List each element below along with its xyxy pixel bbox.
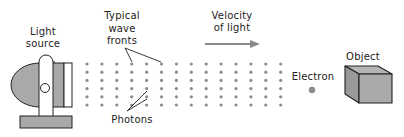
photon-dot <box>249 62 252 65</box>
photon-dot <box>130 95 133 98</box>
photon-pointers <box>127 91 147 111</box>
photon-dot <box>205 62 208 65</box>
photon-dot <box>100 79 103 82</box>
object-cube-icon <box>345 66 392 103</box>
photon-dot <box>130 71 133 74</box>
photon-dot <box>279 95 282 98</box>
photon-dot <box>205 87 208 90</box>
photon-dot <box>145 87 148 90</box>
photon-dot <box>85 79 88 82</box>
photon-dot <box>279 71 282 74</box>
photon-dot <box>160 62 163 65</box>
photon-dot <box>190 79 193 82</box>
photon-dot <box>100 62 103 65</box>
photon-dot <box>264 95 267 98</box>
photon-dot <box>279 103 282 106</box>
photon-dot <box>205 95 208 98</box>
photon-dot <box>220 103 223 106</box>
photon-dot <box>249 103 252 106</box>
photon-dot <box>264 103 267 106</box>
photon-dot <box>175 87 178 90</box>
photon-dot <box>145 79 148 82</box>
photon-dot <box>115 71 118 74</box>
photon-dot <box>115 95 118 98</box>
photon-dot <box>160 71 163 74</box>
photon-dot <box>85 62 88 65</box>
photon-dot <box>190 87 193 90</box>
photon-dot <box>145 71 148 74</box>
label-line: Light <box>18 26 68 38</box>
label-line: wave <box>92 23 152 36</box>
object-label: Object <box>343 51 383 63</box>
photon-dot <box>160 103 163 106</box>
photon-dot <box>234 71 237 74</box>
photon-dot <box>190 95 193 98</box>
photon-dot <box>220 87 223 90</box>
photon-dot <box>100 95 103 98</box>
photon-dot <box>220 95 223 98</box>
wave-fronts-label: Typical wave fronts <box>92 10 152 48</box>
photon-dot <box>160 95 163 98</box>
photon-dot <box>190 71 193 74</box>
photon-dot <box>115 79 118 82</box>
photon-dot <box>175 71 178 74</box>
photon-dot <box>205 79 208 82</box>
photon-dot <box>205 71 208 74</box>
photon-dot <box>249 95 252 98</box>
photon-dot <box>264 62 267 65</box>
photon-dot <box>220 71 223 74</box>
velocity-label: Velocity of light <box>202 10 262 34</box>
photon-dot <box>249 79 252 82</box>
photon-dot <box>100 103 103 106</box>
photon-dot <box>234 95 237 98</box>
label-line: fronts <box>92 35 152 48</box>
electron-dot <box>309 87 315 93</box>
photon-dot <box>279 62 282 65</box>
photon-dot <box>190 103 193 106</box>
photon-dot <box>220 62 223 65</box>
photon-dot <box>249 87 252 90</box>
photon-dot <box>145 95 148 98</box>
photon-dot <box>85 71 88 74</box>
photon-dot <box>85 87 88 90</box>
photon-dot <box>145 103 148 106</box>
photon-dot <box>175 95 178 98</box>
photon-dot <box>100 87 103 90</box>
label-line: Typical <box>92 10 152 23</box>
photon-dot <box>85 95 88 98</box>
photon-dot <box>264 79 267 82</box>
photon-dot <box>115 103 118 106</box>
photon-dot <box>234 87 237 90</box>
light-source-label: Light source <box>18 26 68 50</box>
photon-dot <box>220 79 223 82</box>
photon-dot <box>264 87 267 90</box>
electron-label: Electron <box>288 71 338 83</box>
photon-dot <box>115 62 118 65</box>
photon-dot <box>234 79 237 82</box>
photon-dot <box>115 87 118 90</box>
photon-dot <box>160 79 163 82</box>
photon-dot <box>130 87 133 90</box>
photon-dot <box>100 71 103 74</box>
photon-dot <box>279 79 282 82</box>
photon-dot <box>234 103 237 106</box>
photon-dot <box>175 103 178 106</box>
photon-dot <box>175 62 178 65</box>
photon-dot <box>234 62 237 65</box>
photon-dot <box>145 62 148 65</box>
photon-grid <box>85 62 282 106</box>
label-line: of light <box>202 22 262 34</box>
photon-dot <box>279 87 282 90</box>
light-source-icon <box>11 55 72 128</box>
photon-dot <box>130 79 133 82</box>
label-line: source <box>18 38 68 50</box>
label-line: Velocity <box>202 10 262 22</box>
photons-label: Photons <box>104 114 160 126</box>
photon-dot <box>264 71 267 74</box>
wave-front-pointers <box>125 48 161 62</box>
photon-dot <box>249 71 252 74</box>
photon-dot <box>175 79 178 82</box>
photon-dot <box>190 62 193 65</box>
photon-dot <box>130 62 133 65</box>
photon-diagram: Light source Typical wave fronts Velocit… <box>0 0 404 137</box>
